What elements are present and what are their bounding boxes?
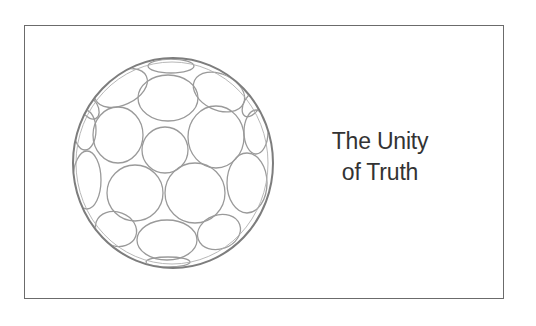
title-line-1: The Unity (300, 126, 460, 157)
slide-title: The Unity of Truth (300, 126, 460, 188)
title-line-2: of Truth (300, 157, 460, 188)
